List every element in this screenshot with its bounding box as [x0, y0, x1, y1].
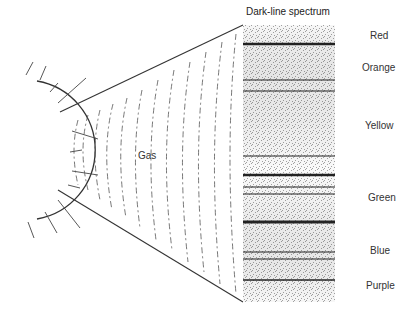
diagram-title: Dark-line spectrum [246, 6, 330, 17]
band-label-red: Red [370, 30, 388, 41]
gas-label: Gas [138, 150, 156, 161]
spectrum-strip [243, 25, 335, 302]
gas-cloud [74, 34, 236, 294]
band-label-yellow: Yellow [365, 120, 394, 131]
band-label-green: Green [368, 192, 396, 203]
band-label-orange: Orange [362, 62, 395, 73]
sun-rays [26, 62, 98, 238]
spectrum-diagram [0, 0, 411, 309]
light-cone-edges [58, 25, 243, 302]
sun-body [37, 81, 95, 219]
band-label-purple: Purple [366, 280, 395, 291]
band-label-blue: Blue [370, 245, 390, 256]
